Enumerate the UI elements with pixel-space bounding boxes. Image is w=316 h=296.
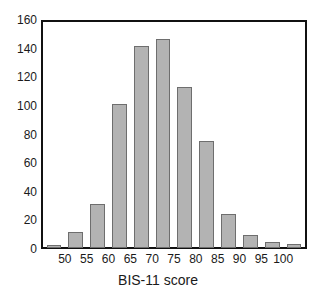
y-axis-tick-label: 160 (0, 14, 37, 26)
bar-slot (196, 22, 218, 248)
y-axis-tick-label: 100 (0, 100, 37, 112)
histogram-bar (221, 214, 236, 248)
histogram-bar (68, 232, 83, 248)
x-axis: 50556065707580859095100 (43, 252, 305, 270)
histogram-bar (47, 245, 62, 248)
histogram-chart: 020406080100120140160 505560657075808590… (0, 0, 316, 296)
bar-slot (87, 22, 109, 248)
histogram-bar (112, 104, 127, 248)
y-axis: 020406080100120140160 (0, 20, 37, 249)
y-axis-tick-label: 40 (0, 186, 37, 198)
bar-slot (283, 22, 305, 248)
bar-slot (130, 22, 152, 248)
histogram-bar (177, 87, 192, 248)
y-axis-tick-label: 140 (0, 43, 37, 55)
histogram-bar (287, 244, 302, 248)
bar-slot (108, 22, 130, 248)
histogram-bar (243, 235, 258, 248)
bar-slot (218, 22, 240, 248)
x-axis-title: BIS-11 score (0, 272, 316, 288)
y-axis-tick-label: 60 (0, 157, 37, 169)
bar-slot (65, 22, 87, 248)
histogram-bar (134, 46, 149, 248)
histogram-bar (199, 141, 214, 248)
y-axis-tick-label: 20 (0, 214, 37, 226)
bar-slot (174, 22, 196, 248)
histogram-bar (90, 204, 105, 248)
y-axis-tick-label: 120 (0, 71, 37, 83)
bars-container (43, 22, 305, 248)
histogram-bar (265, 242, 280, 248)
y-axis-tick-label: 0 (0, 243, 37, 255)
bar-slot (239, 22, 261, 248)
y-axis-tick-label: 80 (0, 129, 37, 141)
x-axis-tick-label: 100 (268, 252, 298, 266)
histogram-bar (156, 39, 171, 248)
bar-slot (43, 22, 65, 248)
bar-slot (261, 22, 283, 248)
bar-slot (152, 22, 174, 248)
